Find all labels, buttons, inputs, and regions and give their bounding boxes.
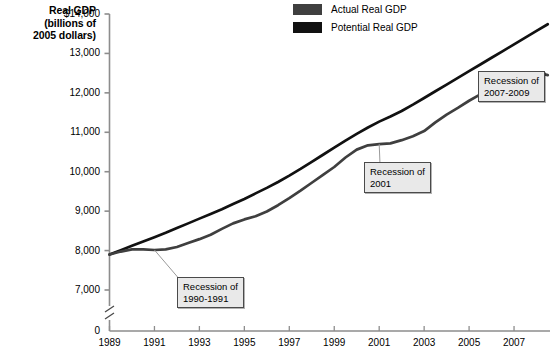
callout-recession-2001-line-2: 2001 [370, 178, 425, 190]
y-tick-label-0: 0 [14, 326, 100, 336]
y-tick-label-9000: 9,000 [14, 206, 100, 216]
x-tick-label-2003: 2003 [404, 338, 444, 348]
annotation-leader-lines [154, 72, 536, 281]
callout-recession-1990-1991: Recession of 1990-1991 [177, 277, 244, 308]
callout-recession-2007-2009-line-1: Recession of [484, 75, 539, 87]
x-tick-label-1991: 1991 [134, 338, 174, 348]
callout-recession-2007-2009-line-2: 2007-2009 [484, 87, 539, 99]
x-tick-label-1993: 1993 [179, 338, 219, 348]
callout-recession-2001: Recession of 2001 [364, 162, 431, 193]
y-tick-label-13000: 13,000 [14, 48, 100, 58]
x-tick-label-2007: 2007 [494, 338, 534, 348]
callout-recession-1990-1991-line-1: Recession of [183, 281, 238, 293]
y-tick-label-7000: 7,000 [14, 285, 100, 295]
y-tick-label-10000: 10,000 [14, 167, 100, 177]
gdp-line-chart: Real GDP (billions of 2005 dollars) Actu… [0, 0, 554, 358]
y-tick-label-14000: $14,000 [14, 9, 100, 19]
x-tick-label-2001: 2001 [359, 338, 399, 348]
x-tick-label-1997: 1997 [269, 338, 309, 348]
callout-recession-2007-2009: Recession of 2007-2009 [478, 71, 545, 102]
x-tick-label-1995: 1995 [224, 338, 264, 348]
callout-recession-2001-line-1: Recession of [370, 166, 425, 178]
callout-recession-1990-1991-line-2: 1990-1991 [183, 293, 238, 305]
x-tick-label-2005: 2005 [449, 338, 489, 348]
x-tick-label-1999: 1999 [314, 338, 354, 348]
x-tick-label-1989: 1989 [90, 338, 130, 348]
y-tick-label-12000: 12,000 [14, 88, 100, 98]
data-lines-group [110, 24, 548, 254]
y-tick-label-11000: 11,000 [14, 127, 100, 137]
y-tick-label-8000: 8,000 [14, 246, 100, 256]
series-line-potential-real-gdp [110, 24, 548, 254]
